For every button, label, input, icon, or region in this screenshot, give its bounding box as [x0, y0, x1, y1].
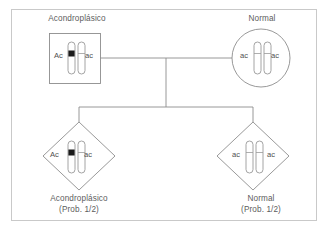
father-allele-right: ac	[85, 52, 93, 60]
offspring-2-probability: (Prob. 1/2)	[216, 205, 306, 216]
offspring-2-label: Normal (Prob. 1/2)	[216, 194, 306, 215]
offspring-2-label-text: Normal	[216, 194, 306, 205]
offspring-1-allele-right: ac	[84, 151, 92, 159]
mother-allele-right: ac	[271, 52, 279, 60]
figure-border	[11, 9, 317, 221]
father-label: Acondroplásico	[38, 14, 116, 25]
offspring-2-allele-right: ac	[267, 151, 275, 159]
offspring-1-label-text: Acondroplásico	[34, 194, 124, 205]
mother-label: Normal	[238, 14, 286, 25]
mother-allele-left: ac	[240, 52, 248, 60]
pedigree-figure: Acondroplásico Normal Acondroplásico (Pr…	[0, 0, 335, 236]
offspring-2-allele-left: ac	[232, 151, 240, 159]
offspring-1-probability: (Prob. 1/2)	[34, 205, 124, 216]
offspring-1-label: Acondroplásico (Prob. 1/2)	[34, 194, 124, 215]
offspring-1-allele-left: Ac	[50, 151, 59, 159]
father-allele-left: Ac	[54, 52, 63, 60]
